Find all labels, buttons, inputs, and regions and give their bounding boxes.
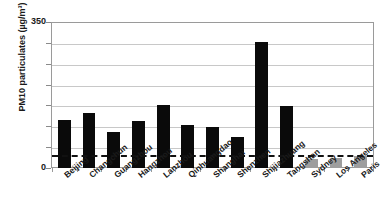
- y-tickmark: [46, 43, 51, 44]
- y-tickmark: [46, 85, 51, 86]
- x-axis-labels: BeijingChangchunGuangzhouHangzhouLanzhou…: [0, 170, 385, 219]
- y-tick-label-max: 350: [20, 16, 46, 26]
- bars-layer: [52, 22, 373, 168]
- chart-screenshot: PM10 particulates (µg/m³) 350 0 BeijingC…: [0, 0, 385, 219]
- y-tickmark: [46, 105, 51, 106]
- y-tickmark: [46, 147, 51, 148]
- y-tickmark: [46, 126, 51, 127]
- y-tickmark: [46, 22, 51, 23]
- y-tickmark: [46, 168, 51, 169]
- bar: [58, 120, 71, 168]
- y-tickmark: [46, 64, 51, 65]
